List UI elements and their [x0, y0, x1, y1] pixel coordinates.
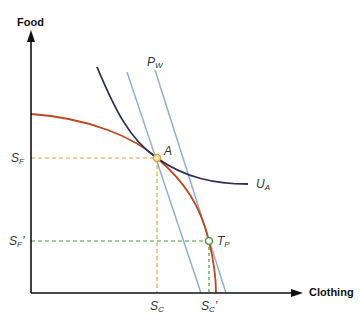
point-a-label: A: [164, 145, 172, 157]
sf-label: SF: [11, 152, 24, 166]
sc-label: SC: [150, 300, 164, 314]
price-line-1: [127, 72, 201, 293]
y-axis-arrow-icon: [27, 30, 35, 42]
point-tp-label: TP: [217, 235, 230, 249]
sc-prime-label: SC’: [201, 300, 217, 314]
sf-prime-label: SF’: [9, 235, 25, 249]
pw-label: PW: [147, 56, 163, 70]
x-axis-arrow-icon: [291, 289, 303, 297]
point-a-marker: [154, 155, 161, 162]
ua-label: UA: [256, 178, 270, 192]
ppf-curve: [31, 114, 216, 293]
trade-diagram: [0, 0, 361, 321]
point-tp-marker: [206, 238, 213, 245]
y-axis-title: Food: [17, 17, 44, 28]
x-axis-title: Clothing: [309, 287, 354, 298]
